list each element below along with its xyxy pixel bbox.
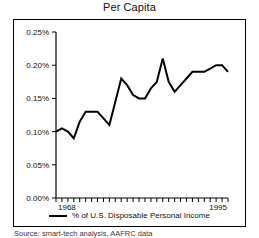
y-tick-label-2: 0.15% bbox=[26, 94, 49, 103]
data-series-line bbox=[56, 59, 228, 139]
y-tick-label-1: 0.20% bbox=[26, 61, 49, 70]
chart-frame: 0.25% 0.20% 0.15% 0.10% 0.05% 0.00% 1968… bbox=[13, 19, 246, 227]
y-tick-label-0: 0.25% bbox=[26, 28, 49, 37]
legend-item-label: % of U.S. Disposable Personal Income bbox=[72, 211, 210, 221]
y-tick-label-4: 0.05% bbox=[26, 161, 49, 170]
chart-figure: Per Capita 0.25% 0.20% 0.15% 0.10% 0.05%… bbox=[0, 0, 259, 238]
legend-line-swatch bbox=[49, 215, 67, 217]
source-note: Source: smart-tech analysis, AAFRC data bbox=[14, 229, 259, 238]
page-title: Per Capita bbox=[0, 1, 259, 14]
x-axis-ticks bbox=[56, 198, 228, 202]
line-chart-plot: 0.25% 0.20% 0.15% 0.10% 0.05% 0.00% 1968… bbox=[14, 20, 244, 225]
y-tick-label-3: 0.10% bbox=[26, 128, 49, 137]
chart-legend: % of U.S. Disposable Personal Income bbox=[13, 211, 246, 221]
y-tick-label-5: 0.00% bbox=[26, 194, 49, 203]
